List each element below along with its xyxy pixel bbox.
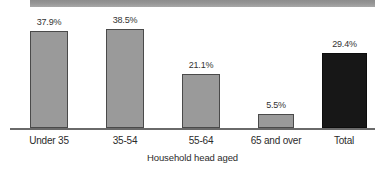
bar-value-label: 21.1% [189,60,214,71]
bar-group[interactable]: 5.5% [258,12,294,128]
x-tick-label: Total [317,134,371,147]
header-band [30,0,375,7]
bar-value-label: 38.5% [113,15,138,26]
x-tick-label: 65 and over [240,134,312,147]
bar-value-label: 29.4% [332,39,357,50]
bar-group[interactable]: 29.4% [322,12,367,128]
bar[interactable] [182,74,220,128]
x-tick-label: 55-64 [174,134,228,147]
bar-value-label: 37.9% [37,17,62,28]
plot-area: 37.9% 38.5% 21.1% 5.5% 29.4% [0,12,385,128]
bar[interactable] [30,31,68,128]
bar[interactable] [322,53,367,128]
bar-value-label: 5.5% [266,100,286,111]
bar-group[interactable]: 21.1% [182,12,220,128]
bar[interactable] [106,29,144,128]
bar-group[interactable]: 38.5% [106,12,144,128]
x-axis-title: Household head aged [0,152,385,164]
bar-chart: 37.9% 38.5% 21.1% 5.5% 29.4% Under 35 35… [0,0,385,173]
bar-group[interactable]: 37.9% [30,12,68,128]
bar[interactable] [258,114,294,128]
x-tick-label: Under 35 [22,134,76,147]
x-tick-label: 35-54 [98,134,152,147]
x-axis-line [10,128,375,130]
